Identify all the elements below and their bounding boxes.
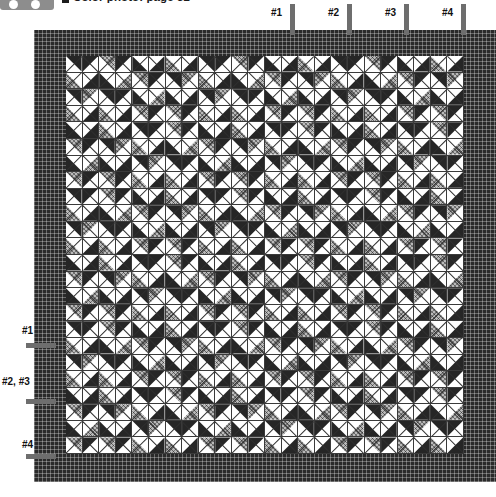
- quilt-unit: [166, 73, 183, 90]
- seam-line: [298, 355, 314, 371]
- quilt-unit: [199, 371, 216, 388]
- quilt-unit: [215, 205, 232, 222]
- seam-line: [398, 321, 414, 337]
- seam-line: [182, 305, 198, 321]
- quilt-unit: [199, 189, 216, 206]
- seam-line: [232, 288, 248, 304]
- top-marker-label-1: #1: [271, 7, 282, 18]
- seam-line: [381, 73, 397, 89]
- seam-line: [248, 122, 264, 138]
- seam-line: [166, 371, 182, 387]
- seam-line: [116, 56, 132, 72]
- quilt-unit: [199, 272, 216, 289]
- quilt-unit: [365, 122, 382, 139]
- quilt-unit: [182, 238, 199, 255]
- quilt-unit: [298, 56, 315, 73]
- quilt-unit: [116, 222, 133, 239]
- quilt-unit: [315, 371, 332, 388]
- quilt-unit: [398, 189, 415, 206]
- seam-line: [398, 122, 414, 138]
- seam-line: [248, 238, 264, 254]
- seam-line: [315, 172, 331, 188]
- seam-line: [182, 421, 198, 437]
- seam-line: [232, 321, 248, 337]
- seam-line: [431, 238, 447, 254]
- quilt-unit: [447, 189, 464, 206]
- quilt-unit: [83, 89, 100, 106]
- seam-line: [99, 371, 115, 387]
- seam-line: [282, 305, 298, 321]
- seam-line: [166, 255, 182, 271]
- quilt-unit: [199, 122, 216, 139]
- quilt-unit: [132, 355, 149, 372]
- quilt-unit: [431, 272, 448, 289]
- seam-line: [116, 89, 132, 105]
- quilt-unit: [282, 305, 299, 322]
- quilt-unit: [381, 321, 398, 338]
- quilt-unit: [232, 56, 249, 73]
- quilt-unit: [149, 89, 166, 106]
- quilt-unit: [381, 338, 398, 355]
- quilt-unit: [315, 122, 332, 139]
- seam-line: [414, 321, 430, 337]
- seam-line: [381, 172, 397, 188]
- seam-line: [199, 189, 215, 205]
- quilt-unit: [166, 172, 183, 189]
- seam-line: [331, 172, 347, 188]
- quilt-unit: [365, 255, 382, 272]
- seam-line: [132, 321, 148, 337]
- seam-line: [116, 272, 132, 288]
- quilt-unit: [298, 255, 315, 272]
- seam-line: [182, 89, 198, 105]
- seam-line: [414, 205, 430, 221]
- quilt-unit: [66, 288, 83, 305]
- seam-line: [315, 238, 331, 254]
- seam-line: [398, 56, 414, 72]
- quilt-unit: [166, 321, 183, 338]
- quilt-unit: [331, 222, 348, 239]
- seam-line: [431, 255, 447, 271]
- seam-line: [215, 421, 231, 437]
- seam-line: [248, 139, 264, 155]
- seam-line: [447, 139, 463, 155]
- seam-line: [132, 272, 148, 288]
- seam-line: [282, 338, 298, 354]
- quilt-unit: [132, 321, 149, 338]
- quilt-unit: [83, 355, 100, 372]
- left-marker-label-3: #4: [22, 439, 33, 450]
- quilt-unit: [298, 89, 315, 106]
- seam-line: [365, 388, 381, 404]
- quilt-unit: [348, 156, 365, 173]
- seam-line: [248, 56, 264, 72]
- seam-line: [215, 355, 231, 371]
- quilt-unit: [348, 89, 365, 106]
- seam-line: [66, 89, 82, 105]
- seam-line: [348, 321, 364, 337]
- seam-line: [132, 437, 148, 453]
- quilt-unit: [248, 205, 265, 222]
- quilt-unit: [331, 106, 348, 123]
- seam-line: [282, 139, 298, 155]
- quilt-unit: [381, 89, 398, 106]
- seam-line: [199, 272, 215, 288]
- seam-line: [414, 189, 430, 205]
- seam-line: [66, 205, 82, 221]
- quilt-unit: [166, 272, 183, 289]
- quilt-unit: [348, 388, 365, 405]
- quilt-unit: [248, 89, 265, 106]
- seam-line: [232, 238, 248, 254]
- quilt-unit: [215, 355, 232, 372]
- seam-line: [132, 222, 148, 238]
- quilt-unit: [248, 73, 265, 90]
- quilt-unit: [348, 56, 365, 73]
- quilt-unit: [381, 238, 398, 255]
- seam-line: [365, 255, 381, 271]
- quilt-unit: [166, 288, 183, 305]
- seam-line: [182, 388, 198, 404]
- seam-line: [248, 305, 264, 321]
- quilt-unit: [414, 189, 431, 206]
- seam-line: [348, 189, 364, 205]
- seam-line: [83, 437, 99, 453]
- quilt-unit: [331, 156, 348, 173]
- seam-line: [83, 73, 99, 89]
